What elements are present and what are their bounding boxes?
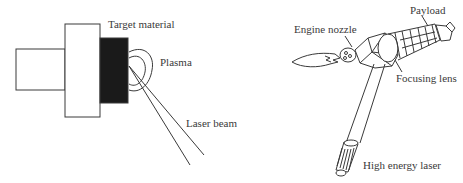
engine-nozzle-shape <box>340 48 356 62</box>
payload-leader <box>422 16 428 26</box>
diagram-canvas: Target material Plasma Laser beam Payloa… <box>0 0 463 183</box>
payload-module <box>436 25 452 41</box>
target-material-block <box>100 38 128 103</box>
engine-nozzle-leader <box>345 36 352 47</box>
label-laser-beam: Laser beam <box>186 118 237 129</box>
label-engine-nozzle: Engine nozzle <box>294 24 357 35</box>
laser-device-top <box>344 140 358 146</box>
body-segments <box>395 25 436 58</box>
laser-beam-line-2 <box>129 66 204 155</box>
laser-beam-up-2 <box>360 64 385 143</box>
label-high-energy-laser: High energy laser <box>363 160 441 171</box>
focusing-lens-shape <box>378 34 398 62</box>
exhaust-flame <box>292 53 340 67</box>
laser-ablation-diagram <box>0 0 463 183</box>
label-payload: Payload <box>410 5 445 16</box>
body-bands <box>400 32 437 48</box>
label-target-material: Target material <box>108 19 175 30</box>
rear-block <box>16 49 65 90</box>
laser-device-base <box>336 170 346 176</box>
focusing-lens-leader <box>395 60 402 72</box>
laser-beam-line-1 <box>129 66 190 165</box>
main-block <box>65 24 100 117</box>
label-focusing-lens: Focusing lens <box>396 73 457 84</box>
label-plasma: Plasma <box>160 57 192 68</box>
spacecraft-diagram <box>292 16 455 176</box>
laser-beam-up-1 <box>346 64 374 143</box>
